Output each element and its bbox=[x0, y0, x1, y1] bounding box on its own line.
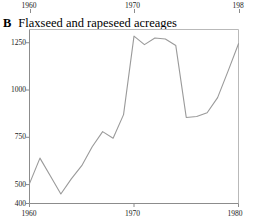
y-axis-tick-label-1000: 1000 bbox=[0, 85, 26, 94]
x-axis-tick-label-1960: 1960 bbox=[22, 209, 37, 217]
top-axis: 1960 1970 198 bbox=[0, 0, 253, 13]
y-axis-tick-label-400: 400 bbox=[0, 199, 26, 208]
data-series-line bbox=[30, 36, 239, 194]
chart-canvas bbox=[0, 28, 253, 216]
top-axis-tick-label-1970: 1970 bbox=[125, 1, 140, 10]
chart-title: BFlaxseed and rapeseed acreages bbox=[3, 13, 177, 28]
plot-frame bbox=[30, 30, 239, 204]
y-axis-tick-label-750: 750 bbox=[0, 132, 26, 141]
top-axis-tick-mark-1980 bbox=[239, 9, 240, 13]
x-axis-tick-marks bbox=[30, 204, 239, 208]
chart-figure: 1960 1970 198 BFlaxseed and rapeseed acr… bbox=[0, 0, 253, 216]
y-axis-tick-marks bbox=[26, 43, 30, 204]
x-axis-tick-label-1980: 1980 bbox=[228, 209, 243, 217]
y-axis-tick-label-1250: 1250 bbox=[0, 38, 26, 47]
x-axis-tick-label-1970: 1970 bbox=[125, 209, 140, 217]
y-axis-tick-label-500: 500 bbox=[0, 180, 26, 189]
plot-area: 1250 1000 750 500 400 1960 1970 1980 bbox=[0, 28, 253, 216]
